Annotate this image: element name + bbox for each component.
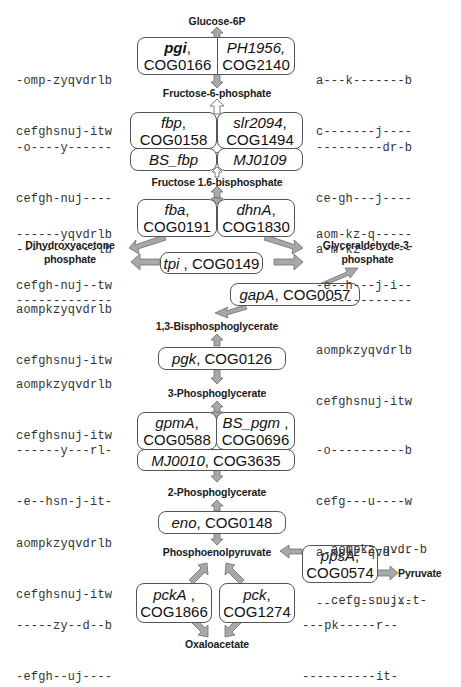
metabolite-13-bisphosphoglycerate: 1,3-Bisphosphoglycerate xyxy=(142,320,292,332)
cog-id: COG1494 xyxy=(226,131,294,148)
cog-id: COG0158 xyxy=(140,131,208,148)
enzyme-box-mj0109[interactable]: MJ0109 xyxy=(217,148,303,171)
profile-line: aompkzyqvdrlb xyxy=(16,302,112,319)
separator: , xyxy=(185,201,189,218)
profile-line: aompkz-qvdr-b xyxy=(331,542,427,559)
metabolite-oxaloacetate: Oxaloacetate xyxy=(167,638,267,650)
gene-name: pck xyxy=(243,586,266,603)
enzyme-box-mj0010[interactable]: MJ0010, COG3635 xyxy=(137,449,295,471)
gene-name: eno xyxy=(172,514,197,531)
profile-line: ---pk-----r-- xyxy=(302,618,398,635)
arrow-gapa-bpg xyxy=(215,305,247,318)
enzyme-box-dhna[interactable]: dhnA, COG1830 xyxy=(217,199,295,237)
profile-line: ---------dr-b xyxy=(316,140,412,157)
profile-line: a---k-------b xyxy=(316,73,412,90)
gene-name: fbp xyxy=(161,114,182,131)
metabolite-fructose-6-phosphate: Fructose-6-phosphate xyxy=(147,87,287,99)
enzyme-box-pcka[interactable]: pckA , COG1866 xyxy=(136,583,212,623)
enzyme-box-pck[interactable]: pck, COG1274 xyxy=(219,583,295,623)
cog-id: COG1866 xyxy=(140,603,208,620)
arrow-gpm-2pg xyxy=(211,470,223,482)
enzyme-box-fbp[interactable]: fbp, COG0158 xyxy=(130,112,217,149)
metabolite-fructose-bisphosphate: Fructose 1.6-bisphosphate xyxy=(137,176,297,188)
cog-id: COG1274 xyxy=(223,603,291,620)
metabolite-3-phosphoglycerate: 3-Phosphoglycerate xyxy=(157,387,277,399)
arrow-2pg-eno xyxy=(211,500,223,511)
profile-line: ----------it- xyxy=(302,669,398,686)
arrow-dhna-g3p xyxy=(264,235,303,254)
enzyme-box-ph1956[interactable]: PH1956, COG2140 xyxy=(217,37,295,75)
separator: , xyxy=(187,39,191,56)
gene-name: BS_pgm xyxy=(223,414,281,431)
gene-name: gapA xyxy=(240,286,275,303)
profile-pcka: -----zy--d--b -efgh--uj---- xyxy=(16,584,112,687)
cog-id: COG2140 xyxy=(222,56,290,73)
separator: , xyxy=(275,286,279,303)
cog-id: COG0149 xyxy=(192,255,260,272)
arrow-pgk-3pg xyxy=(211,369,223,384)
separator: , xyxy=(283,114,287,131)
arrow-pcka-pep xyxy=(189,563,208,584)
profile-line: aompkzyqvdrlb xyxy=(16,536,112,553)
cog-id: COG1830 xyxy=(222,218,290,235)
gene-name: pckA xyxy=(153,586,186,603)
enzyme-box-pgk[interactable]: pgk, COG0126 xyxy=(158,347,286,370)
metabolite-2-phosphoglycerate: 2-Phosphoglycerate xyxy=(157,486,277,498)
gene-name: pgk xyxy=(172,350,196,367)
arrow-pck-pep xyxy=(225,563,244,584)
separator: , xyxy=(195,414,199,431)
profile-line: ------y---rl- xyxy=(16,443,112,460)
enzyme-box-pgi[interactable]: pgi, COG0166 xyxy=(137,37,218,75)
separator: , xyxy=(284,414,288,431)
profile-line: -o----------b xyxy=(316,443,412,460)
cog-id: COG0126 xyxy=(204,350,272,367)
separator: , xyxy=(271,201,275,218)
gene-name: fba xyxy=(164,201,185,218)
cog-id: COG0166 xyxy=(144,56,212,73)
gene-name: MJ0010 xyxy=(151,452,204,469)
cog-id: COG0696 xyxy=(222,431,290,448)
metabolite-glucose-6p: Glucose-6P xyxy=(177,15,257,27)
cog-id: COG0148 xyxy=(205,514,273,531)
profile-line: aom-kz-q----- xyxy=(316,227,412,244)
profile-line: -efgh--uj---- xyxy=(16,669,112,686)
gene-name: dhnA xyxy=(236,201,271,218)
separator: , xyxy=(267,586,271,603)
gene-name: BS_fbp xyxy=(149,151,198,168)
enzyme-box-gpma[interactable]: gpmA, COG0588 xyxy=(137,412,217,450)
profile-line: ------yqvdrlb xyxy=(16,227,112,244)
separator: , xyxy=(191,586,195,603)
separator: , xyxy=(197,514,201,531)
profile-line: -----zy--d--b xyxy=(16,618,112,635)
gene-name: MJ0109 xyxy=(233,151,286,168)
enzyme-box-tpi[interactable]: tpi , COG0149 xyxy=(160,252,263,274)
enzyme-box-fba[interactable]: fba, COG0191 xyxy=(137,199,217,237)
gene-name: tpi xyxy=(164,255,180,272)
gene-name: pgi xyxy=(164,39,187,56)
gene-name: slr2094 xyxy=(233,114,282,131)
separator: , xyxy=(182,114,186,131)
profile-line: -o----y------ xyxy=(16,140,112,157)
profile-line: -omp-zyqvdrlb xyxy=(16,73,112,90)
cog-id: COG0588 xyxy=(143,431,211,448)
cog-id: COG3635 xyxy=(213,452,281,469)
separator: , xyxy=(205,452,209,469)
gene-name: gpmA xyxy=(155,414,194,431)
enzyme-box-bs-pgm[interactable]: BS_pgm , COG0696 xyxy=(216,412,295,450)
arrow-pgk-bpg xyxy=(211,334,223,346)
profile-dhna: aom-kz-q----- -e--h---j-i-- xyxy=(316,193,412,312)
arrow-eno-pep xyxy=(211,533,223,545)
separator: , xyxy=(196,350,200,367)
profile-line: aompkzyqvdrlb xyxy=(16,377,112,394)
enzyme-box-eno[interactable]: eno, COG0148 xyxy=(158,511,286,534)
profile-pck: ---pk-----r-- ----------it- xyxy=(302,584,398,687)
enzyme-box-slr2094[interactable]: slr2094, COG1494 xyxy=(217,112,303,149)
cog-id: COG0191 xyxy=(143,218,211,235)
profile-line: aompkzyqvdrlb xyxy=(316,343,412,360)
metabolite-phosphoenolpyruvate: Phosphoenolpyruvate xyxy=(147,546,287,558)
separator: , xyxy=(184,255,188,272)
enzyme-box-bs-fbp[interactable]: BS_fbp xyxy=(130,148,217,171)
gene-name: PH1956, xyxy=(227,39,285,56)
profile-line: -e--h---j-i-- xyxy=(316,278,412,295)
arrow-fba-dhap xyxy=(129,235,166,254)
